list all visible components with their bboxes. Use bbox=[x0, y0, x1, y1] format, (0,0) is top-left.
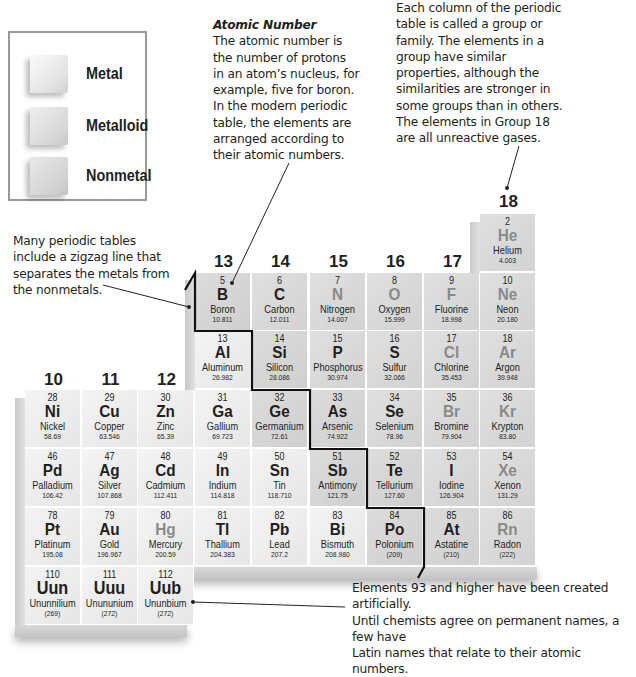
element-name: Ununbium bbox=[141, 597, 189, 609]
element-name: Unununium bbox=[85, 597, 133, 609]
caption-line: Each column of the periodic bbox=[396, 0, 563, 16]
element-name: Cadmium bbox=[141, 479, 189, 491]
zigzag-caption: Many periodic tables include a zigzag li… bbox=[13, 233, 170, 298]
element-symbol: Uub bbox=[141, 580, 191, 597]
element-cell-ununbium: 112UubUnunbium(272) bbox=[138, 567, 194, 625]
element-symbol: Po bbox=[370, 521, 420, 538]
element-symbol: Ne bbox=[483, 286, 533, 303]
element-name: Tin bbox=[255, 479, 303, 491]
nonmetal-swatch bbox=[30, 157, 68, 195]
caption-line: family. The elements in a bbox=[396, 33, 563, 49]
atomic-mass: (272) bbox=[141, 609, 191, 619]
element-symbol: As bbox=[313, 403, 363, 420]
caption-line: the number of protons bbox=[213, 50, 359, 66]
atomic-mass: 107.868 bbox=[85, 491, 135, 501]
table-base-edge bbox=[187, 567, 537, 579]
element-name: Ununnilium bbox=[28, 597, 76, 609]
element-name: Bromine bbox=[427, 420, 475, 432]
element-cell-sulfur: 16SSulfur32.066 bbox=[367, 331, 423, 389]
element-name: Silver bbox=[85, 479, 133, 491]
element-cell-nickel: 28NiNickel58.69 bbox=[25, 390, 81, 448]
element-symbol: Xe bbox=[483, 462, 533, 479]
atomic-mass: 83.80 bbox=[483, 432, 533, 442]
element-name: Krypton bbox=[483, 420, 531, 432]
table-base-edge bbox=[15, 625, 187, 637]
element-symbol: Sb bbox=[313, 462, 363, 479]
group-number-15: 15 bbox=[310, 252, 367, 272]
element-cell-thallium: 81TlThallium204.383 bbox=[195, 508, 251, 566]
group-number-17: 17 bbox=[424, 252, 481, 272]
element-cell-palladium: 46PdPalladium106.42 bbox=[25, 449, 81, 507]
artificial-elements-caption: Elements 93 and higher have been created… bbox=[352, 580, 636, 677]
caption-line: their atomic numbers. bbox=[213, 147, 359, 163]
element-cell-zinc: 30ZnZinc65.39 bbox=[138, 390, 194, 448]
group-caption: Each column of the periodic table is cal… bbox=[396, 0, 563, 147]
element-name: Mercury bbox=[141, 538, 189, 550]
atomic-mass: 126.904 bbox=[427, 491, 477, 501]
element-cell-indium: 49InIndium114.818 bbox=[195, 449, 251, 507]
element-name: Thallium bbox=[198, 538, 246, 550]
caption-line: some groups than in others. bbox=[396, 98, 563, 114]
element-name: Bismuth bbox=[313, 538, 361, 550]
element-symbol: Pt bbox=[28, 521, 78, 538]
element-symbol: Al bbox=[198, 344, 248, 361]
atomic-mass: 204.383 bbox=[198, 550, 248, 560]
element-name: Neon bbox=[483, 303, 531, 315]
element-cell-platinum: 78PtPlatinum195.08 bbox=[25, 508, 81, 566]
element-cell-carbon: 6CCarbon12.011 bbox=[252, 273, 308, 331]
atomic-mass: 30.974 bbox=[313, 373, 363, 383]
atomic-mass: 207.2 bbox=[255, 550, 305, 560]
atomic-mass: 79.904 bbox=[427, 432, 477, 442]
atomic-mass: (209) bbox=[370, 550, 420, 560]
legend-item-nonmetal: Nonmetal bbox=[30, 157, 159, 195]
element-cell-bismuth: 83BiBismuth208.980 bbox=[310, 508, 366, 566]
atomic-mass: 10.811 bbox=[198, 315, 248, 325]
element-name: Phosphorus bbox=[313, 361, 361, 373]
group-number-12: 12 bbox=[138, 370, 195, 390]
caption-line: are all unreactive gases. bbox=[396, 130, 563, 146]
element-symbol: B bbox=[198, 286, 248, 303]
element-cell-phosphorus: 15PPhosphorus30.974 bbox=[310, 331, 366, 389]
element-name: Fluorine bbox=[427, 303, 475, 315]
element-name: Radon bbox=[483, 538, 531, 550]
element-name: Antimony bbox=[313, 479, 361, 491]
element-symbol: Ga bbox=[198, 403, 248, 420]
caption-line: arranged according to bbox=[213, 131, 359, 147]
atomic-mass: 12.011 bbox=[255, 315, 305, 325]
element-symbol: I bbox=[427, 462, 477, 479]
legend-item-metalloid: Metalloid bbox=[30, 107, 155, 145]
group-number-13: 13 bbox=[195, 252, 252, 272]
element-cell-argon: 18ArArgon39.948 bbox=[480, 331, 536, 389]
caption-line: include a zigzag line that bbox=[13, 249, 170, 265]
atomic-mass: (272) bbox=[85, 609, 135, 619]
element-name: Gold bbox=[85, 538, 133, 550]
atomic-mass: (222) bbox=[483, 550, 533, 560]
element-symbol: Cd bbox=[141, 462, 191, 479]
atomic-mass: 72.61 bbox=[255, 432, 305, 442]
element-name: Arsenic bbox=[313, 420, 361, 432]
metalloid-swatch bbox=[30, 107, 68, 145]
legend-item-metal: Metal bbox=[30, 55, 127, 93]
caption-line: table, the elements are bbox=[213, 115, 359, 131]
element-cell-neon: 10NeNeon20.180 bbox=[480, 273, 536, 331]
element-cell-tin: 50SnTin118.710 bbox=[252, 449, 308, 507]
element-name: Germanium bbox=[255, 420, 303, 432]
caption-line: separates the metals from bbox=[13, 266, 170, 282]
group-number-18: 18 bbox=[480, 192, 537, 212]
element-name: Silicon bbox=[255, 361, 303, 373]
atomic-mass: 32.066 bbox=[370, 373, 420, 383]
element-name: Xenon bbox=[483, 479, 531, 491]
element-symbol: Zn bbox=[141, 403, 191, 420]
caption-line: Until chemists agree on permanent names,… bbox=[352, 613, 636, 646]
element-name: Boron bbox=[198, 303, 246, 315]
atomic-mass: 131.29 bbox=[483, 491, 533, 501]
element-symbol: Se bbox=[370, 403, 420, 420]
element-cell-antimony: 51SbAntimony121.75 bbox=[310, 449, 366, 507]
atomic-mass: (269) bbox=[28, 609, 78, 619]
caption-line: The atomic number is bbox=[213, 33, 359, 49]
element-name: Lead bbox=[255, 538, 303, 550]
element-name: Selenium bbox=[370, 420, 418, 432]
element-symbol: Cu bbox=[85, 403, 135, 420]
element-name: Polonium bbox=[370, 538, 418, 550]
element-cell-germanium: 32GeGermanium72.61 bbox=[252, 390, 308, 448]
